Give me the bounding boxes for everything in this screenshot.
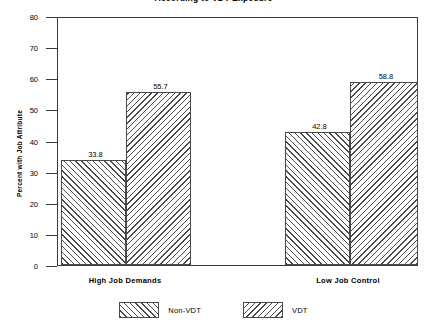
x-category-label-high-job-demands: High Job Demands bbox=[45, 276, 205, 285]
y-tick bbox=[46, 110, 57, 111]
bar-value-label: 58.8 bbox=[366, 72, 406, 81]
y-tick-label: 80 bbox=[14, 13, 38, 22]
y-tick bbox=[46, 204, 57, 205]
legend: Non-VDT VDT bbox=[0, 302, 427, 318]
bar-value-label: 42.8 bbox=[300, 122, 340, 131]
bar-value-label: 55.7 bbox=[141, 82, 181, 91]
legend-item-vdt[interactable]: VDT bbox=[243, 302, 308, 318]
y-tick bbox=[46, 48, 57, 49]
bar-value-label: 33.8 bbox=[76, 150, 116, 159]
bar-chart: According to VDT Exposure Percent with J… bbox=[0, 0, 427, 323]
bar-low-job-control-vdt[interactable] bbox=[350, 82, 418, 265]
y-tick bbox=[46, 79, 57, 80]
y-tick-label: 70 bbox=[14, 44, 38, 53]
plot-area bbox=[57, 17, 418, 266]
y-tick-label: 60 bbox=[14, 75, 38, 84]
chart-title: According to VDT Exposure bbox=[0, 0, 427, 3]
legend-label-non-vdt: Non-VDT bbox=[168, 306, 201, 315]
legend-item-non-vdt[interactable]: Non-VDT bbox=[119, 302, 201, 318]
legend-label-vdt: VDT bbox=[292, 306, 308, 315]
y-tick-label: 40 bbox=[14, 137, 38, 146]
y-tick bbox=[46, 17, 57, 18]
y-tick-label: 20 bbox=[14, 199, 38, 208]
y-tick-label: 50 bbox=[14, 106, 38, 115]
y-tick-label: 0 bbox=[14, 262, 38, 271]
y-tick bbox=[46, 173, 57, 174]
legend-swatch-non-vdt bbox=[119, 302, 159, 318]
bar-high-job-demands-vdt[interactable] bbox=[126, 92, 191, 265]
x-category-label-low-job-control: Low Job Control bbox=[268, 276, 427, 285]
y-tick bbox=[46, 266, 57, 267]
y-tick bbox=[46, 142, 57, 143]
bar-low-job-control-non-vdt[interactable] bbox=[285, 132, 350, 265]
y-tick-label: 30 bbox=[14, 168, 38, 177]
y-tick-label: 10 bbox=[14, 230, 38, 239]
legend-swatch-vdt bbox=[243, 302, 283, 318]
bar-high-job-demands-non-vdt[interactable] bbox=[61, 160, 126, 265]
y-tick bbox=[46, 235, 57, 236]
